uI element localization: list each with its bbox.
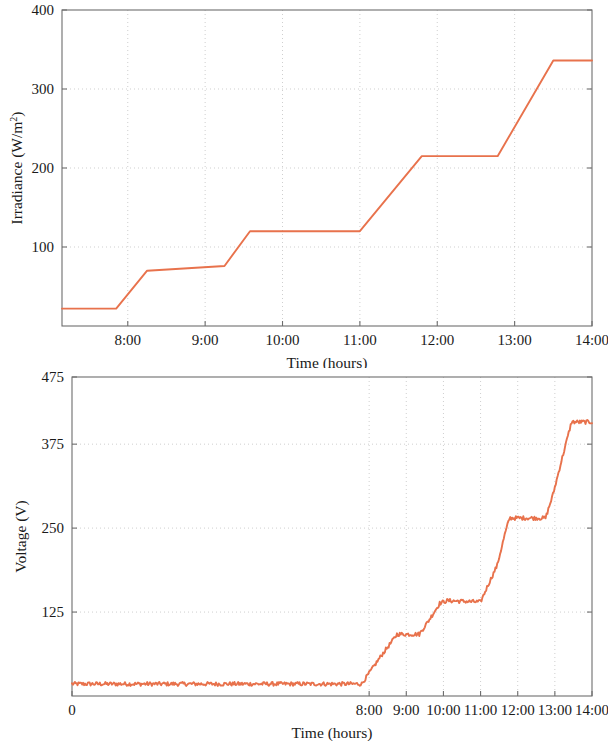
y-axis-title-main: Irradiance (W/m	[8, 122, 26, 225]
x-tick-label: 12:00	[420, 332, 454, 348]
chart-panel-irradiance: 8:009:0010:0011:0012:0013:0014:001002003…	[0, 0, 608, 368]
y-tick-label: 300	[32, 81, 55, 97]
x-tick-label: 9:00	[393, 702, 420, 718]
x-tick-label: 14:00	[575, 702, 608, 718]
x-tick-label: 0	[68, 702, 76, 718]
data-line-irradiance	[62, 61, 592, 309]
y-axis-title: Irradiance (W/m2)	[8, 111, 26, 224]
x-axis-title: Time (hours)	[292, 724, 373, 741]
x-tick-label: 11:00	[464, 702, 498, 718]
chart-panel-voltage: 08:009:0010:0011:0012:0013:0014:00125250…	[0, 368, 608, 741]
y-tick-label: 200	[32, 160, 55, 176]
y-tick-label: 400	[32, 2, 55, 18]
gridlines-group	[72, 377, 592, 696]
plot-frame	[72, 377, 592, 696]
x-tick-label: 10:00	[265, 332, 299, 348]
x-tick-label: 13:00	[538, 702, 572, 718]
y-tick-label: 250	[42, 520, 65, 536]
data-line-voltage	[72, 420, 592, 686]
ticks-group: 8:009:0010:0011:0012:0013:0014:001002003…	[32, 2, 608, 348]
x-axis-title: Time (hours)	[287, 354, 368, 368]
x-tick-label: 12:00	[501, 702, 535, 718]
x-tick-label: 11:00	[343, 332, 377, 348]
x-tick-label: 14:00	[575, 332, 608, 348]
y-tick-label: 475	[42, 369, 65, 385]
ticks-group: 08:009:0010:0011:0012:0013:0014:00125250…	[42, 369, 608, 718]
x-tick-label: 8:00	[356, 702, 383, 718]
x-tick-label: 10:00	[426, 702, 460, 718]
voltage-chart: 08:009:0010:0011:0012:0013:0014:00125250…	[0, 368, 608, 741]
y-tick-label: 100	[32, 239, 55, 255]
x-tick-label: 8:00	[114, 332, 141, 348]
y-tick-label: 375	[42, 436, 65, 452]
x-tick-label: 13:00	[498, 332, 532, 348]
y-tick-label: 125	[42, 604, 65, 620]
x-tick-label: 9:00	[192, 332, 219, 348]
irradiance-chart: 8:009:0010:0011:0012:0013:0014:001002003…	[0, 0, 608, 368]
y-axis-title-suffix: )	[8, 111, 26, 116]
figure-container: 8:009:0010:0011:0012:0013:0014:001002003…	[0, 0, 608, 741]
y-axis-title: Voltage (V)	[12, 500, 30, 572]
